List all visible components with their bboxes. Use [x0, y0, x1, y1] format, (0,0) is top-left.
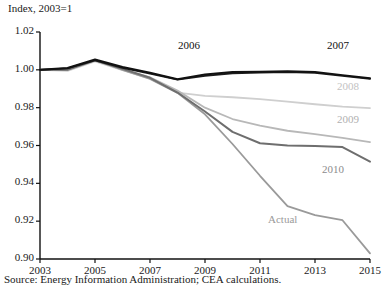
- x-axis-tick-label: 2007: [130, 264, 170, 276]
- series-annotation-2009: 2009: [337, 113, 359, 125]
- series-annotation-2006: 2006: [178, 39, 200, 51]
- y-axis-tick-label: 1.02: [0, 24, 34, 36]
- y-axis-tick-label: 0.98: [0, 100, 34, 112]
- figure-container: Index, 2003=1 Source: Energy Information…: [0, 0, 384, 289]
- y-axis-tick-label: 1.00: [0, 62, 34, 74]
- x-axis-tick-label: 2003: [20, 264, 60, 276]
- y-axis-tick-label: 0.92: [0, 213, 34, 225]
- series-line-actual: [40, 60, 370, 253]
- x-axis-tick-label: 2005: [75, 264, 115, 276]
- y-axis-tick-label: 0.96: [0, 138, 34, 150]
- series-line-2008: [40, 61, 370, 108]
- y-axis-tick-label: 0.90: [0, 251, 34, 263]
- series-annotation-actual: Actual: [268, 213, 297, 225]
- series-annotation-2010: 2010: [322, 163, 344, 175]
- series-annotation-2007: 2007: [327, 39, 349, 51]
- x-axis-tick-label: 2013: [295, 264, 335, 276]
- series-annotation-2008: 2008: [337, 80, 359, 92]
- y-axis-tick-label: 0.94: [0, 175, 34, 187]
- x-axis-tick-label: 2009: [185, 264, 225, 276]
- x-axis-tick-label: 2015: [350, 264, 384, 276]
- x-axis-tick-label: 2011: [240, 264, 280, 276]
